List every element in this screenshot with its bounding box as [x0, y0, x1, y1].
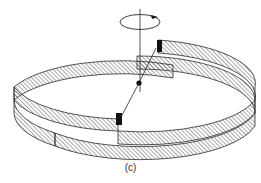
helical-bands-diagram [0, 0, 261, 183]
upper-block [157, 40, 162, 52]
rod-lower [121, 83, 139, 117]
pivot-dot [136, 80, 141, 85]
figure-caption: (c) [0, 162, 261, 173]
lower-block [116, 113, 122, 125]
upper-band [14, 40, 255, 145]
